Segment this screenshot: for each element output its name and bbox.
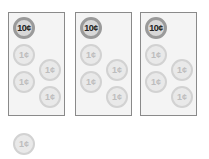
penny-coin[interactable]: 1¢: [171, 59, 193, 81]
penny-coin[interactable]: 1¢: [13, 44, 35, 66]
dime-coin[interactable]: 10¢: [145, 17, 167, 39]
penny-coin[interactable]: 1¢: [171, 86, 193, 108]
penny-coin[interactable]: 1¢: [80, 44, 102, 66]
dime-coin[interactable]: 10¢: [80, 17, 102, 39]
penny-coin[interactable]: 1¢: [106, 59, 128, 81]
dime-coin[interactable]: 10¢: [13, 17, 35, 39]
penny-coin[interactable]: 1¢: [39, 86, 61, 108]
coin-group-1: 10¢ 1¢ 1¢ 1¢ 1¢: [8, 12, 65, 116]
loose-penny-coin[interactable]: 1¢: [13, 133, 35, 155]
penny-coin[interactable]: 1¢: [145, 44, 167, 66]
penny-coin[interactable]: 1¢: [39, 59, 61, 81]
penny-coin[interactable]: 1¢: [80, 71, 102, 93]
coin-group-3: 10¢ 1¢ 1¢ 1¢ 1¢: [140, 12, 197, 116]
penny-coin[interactable]: 1¢: [13, 71, 35, 93]
penny-coin[interactable]: 1¢: [145, 71, 167, 93]
coin-group-2: 10¢ 1¢ 1¢ 1¢ 1¢: [75, 12, 132, 116]
penny-coin[interactable]: 1¢: [106, 86, 128, 108]
